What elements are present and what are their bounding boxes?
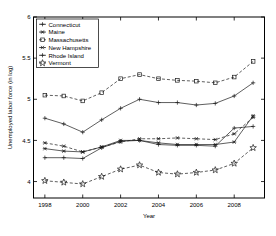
data-point-star-marker: [155, 169, 161, 175]
data-point-plus-marker: [194, 103, 198, 107]
series-connecticut: [43, 81, 255, 135]
x-tick-label: 2002: [114, 202, 128, 208]
data-point-asterisk-marker: [81, 150, 85, 153]
data-point-plus-marker: [213, 101, 217, 105]
series-line: [45, 117, 253, 152]
data-point-asterisk-marker: [156, 137, 160, 140]
x-tick-label: 2000: [76, 202, 90, 208]
data-point-plus-marker: [43, 116, 47, 120]
data-point-square-marker: [232, 75, 236, 79]
series-line: [45, 148, 253, 184]
series-new-hampshire: [43, 116, 255, 154]
series-line: [45, 126, 253, 158]
data-point-plus-marker: [118, 106, 122, 110]
legend-label: New Hampshire: [49, 45, 92, 51]
data-point-asterisk-marker: [175, 136, 179, 139]
data-point-plus-marker: [81, 156, 85, 160]
data-point-plus-marker: [251, 124, 255, 128]
legend-label: Massachusetts: [49, 37, 89, 43]
data-point-plus-marker: [62, 156, 66, 160]
legend-label: Vermont: [49, 60, 72, 66]
data-point-plus-marker: [137, 97, 141, 101]
chart-legend: ConnecticutMaineMassachusettsNew Hampshi…: [37, 19, 99, 68]
data-point-plus-marker: [81, 130, 85, 134]
legend-label: Maine: [49, 29, 66, 35]
data-point-plus-marker: [175, 100, 179, 104]
y-tick-label: 5.5: [22, 55, 31, 61]
data-point-asterisk-marker: [232, 140, 236, 143]
y-tick-label: 4.5: [22, 138, 31, 144]
data-point-plus-marker: [156, 100, 160, 104]
data-point-asterisk-marker: [194, 137, 198, 140]
y-tick-label: 6: [27, 14, 31, 20]
y-tick-label: 4: [27, 179, 31, 185]
data-point-asterisk-marker: [232, 132, 236, 135]
data-point-asterisk-marker: [62, 149, 66, 152]
data-point-plus-marker: [43, 156, 47, 160]
x-tick-label: 1998: [38, 202, 52, 208]
x-tick-label: 2006: [190, 202, 204, 208]
series-line: [45, 116, 253, 152]
x-tick-label: 2008: [228, 202, 242, 208]
y-tick-label: 5: [27, 96, 31, 102]
data-point-asterisk-marker: [62, 144, 66, 147]
data-point-asterisk-marker: [213, 138, 217, 141]
data-point-star-marker: [98, 173, 104, 179]
data-series-layer: [42, 60, 257, 187]
x-axis-title: Year: [143, 213, 155, 219]
series-line: [45, 83, 253, 132]
data-point-star-marker: [61, 179, 67, 185]
chart-figure: ConnecticutMaineMassachusettsNew Hampshi…: [0, 0, 276, 236]
data-point-star-marker: [117, 166, 123, 172]
series-maine: [43, 114, 255, 154]
legend-label: Rhode Island: [49, 53, 84, 59]
line-chart-svg: ConnecticutMaineMassachusettsNew Hampshi…: [0, 0, 276, 236]
data-point-star-marker: [42, 177, 48, 183]
data-point-asterisk-marker: [43, 147, 47, 150]
data-point-plus-marker: [175, 143, 179, 147]
data-point-plus-marker: [62, 122, 66, 126]
y-axis-title: Unemployed labor force (in log): [7, 66, 13, 150]
data-point-plus-marker: [100, 118, 104, 122]
data-point-asterisk-marker: [43, 141, 47, 144]
series-vermont: [42, 144, 257, 186]
series-rhode-island: [43, 124, 255, 160]
data-point-plus-marker: [251, 81, 255, 85]
data-point-plus-marker: [232, 94, 236, 98]
data-point-plus-marker: [194, 143, 198, 147]
data-point-star-marker: [136, 162, 142, 168]
x-tick-label: 2004: [152, 202, 166, 208]
legend-label: Connecticut: [49, 22, 81, 28]
